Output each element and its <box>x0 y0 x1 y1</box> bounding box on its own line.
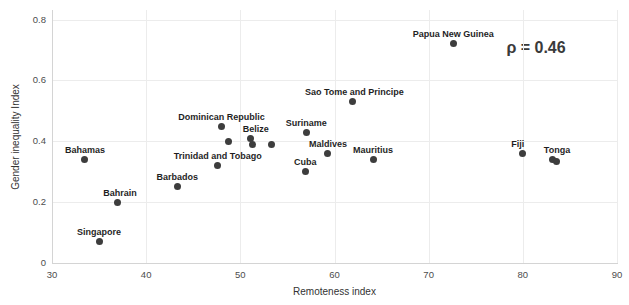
gridline-y-0.8 <box>52 20 617 21</box>
point-label-bahrain: Bahrain <box>103 188 137 198</box>
x-axis-line <box>52 263 618 264</box>
y-axis-line <box>52 10 53 264</box>
data-point-bahrain <box>114 199 121 206</box>
data-point-unlabeled <box>268 141 275 148</box>
point-label-mauritius: Mauritius <box>353 145 393 155</box>
point-label-dominican-republic: Dominican Republic <box>178 112 265 122</box>
data-point-unlabeled <box>553 158 560 165</box>
gridline-x-50 <box>240 10 241 263</box>
point-label-barbados: Barbados <box>156 172 198 182</box>
scatter-chart: Gender inequality Index Remoteness index… <box>0 0 629 305</box>
point-label-suriname: Suriname <box>286 118 327 128</box>
gridline-x-70 <box>429 10 430 263</box>
gridline-x-80 <box>523 10 524 263</box>
y-tick-label-0: 0 <box>16 258 46 268</box>
data-point-barbados <box>174 183 181 190</box>
point-label-bahamas: Bahamas <box>65 145 105 155</box>
data-point-mauritius <box>370 156 377 163</box>
point-label-fiji: Fiji <box>511 139 524 149</box>
y-tick-label-0.4: 0.4 <box>16 136 46 146</box>
data-point-maldives <box>324 150 331 157</box>
data-point-sao-tome-and-principe <box>349 98 356 105</box>
point-label-maldives: Maldives <box>309 139 347 149</box>
gridline-y-0.6 <box>52 80 617 81</box>
data-point-bahamas <box>81 156 88 163</box>
x-tick-label-80: 80 <box>518 270 529 280</box>
data-point-singapore <box>96 238 103 245</box>
point-label-trinidad-and-tobago: Trinidad and Tobago <box>174 151 262 161</box>
data-point-cuba <box>302 168 309 175</box>
y-tick-label-0.2: 0.2 <box>16 197 46 207</box>
data-point-unlabeled <box>225 138 232 145</box>
gridline-y-0.2 <box>52 202 617 203</box>
point-label-belize: Belize <box>243 124 269 134</box>
data-point-fiji <box>519 150 526 157</box>
point-label-singapore: Singapore <box>77 227 121 237</box>
x-tick-label-90: 90 <box>612 270 623 280</box>
point-label-cuba: Cuba <box>294 157 317 167</box>
correlation-annotation: ρ = 0.46 <box>506 39 565 57</box>
y-tick-label-0.8: 0.8 <box>16 15 46 25</box>
data-point-unlabeled <box>249 141 256 148</box>
point-label-sao-tome-and-principe: Sao Tome and Principe <box>305 87 404 97</box>
data-point-suriname <box>303 129 310 136</box>
x-tick-label-60: 60 <box>329 270 340 280</box>
data-point-trinidad-and-tobago <box>214 162 221 169</box>
gridline-x-40 <box>146 10 147 263</box>
x-tick-label-40: 40 <box>141 270 152 280</box>
x-tick-label-50: 50 <box>235 270 246 280</box>
x-tick-label-70: 70 <box>423 270 434 280</box>
y-tick-label-0.6: 0.6 <box>16 75 46 85</box>
point-label-papua-new-guinea: Papua New Guinea <box>413 29 494 39</box>
point-label-tonga: Tonga <box>544 145 570 155</box>
gridline-x-90 <box>617 10 618 263</box>
x-axis-title: Remoteness index <box>293 286 376 297</box>
data-point-dominican-republic <box>218 123 225 130</box>
gridline-x-60 <box>335 10 336 263</box>
x-tick-label-30: 30 <box>47 270 58 280</box>
data-point-papua-new-guinea <box>450 40 457 47</box>
